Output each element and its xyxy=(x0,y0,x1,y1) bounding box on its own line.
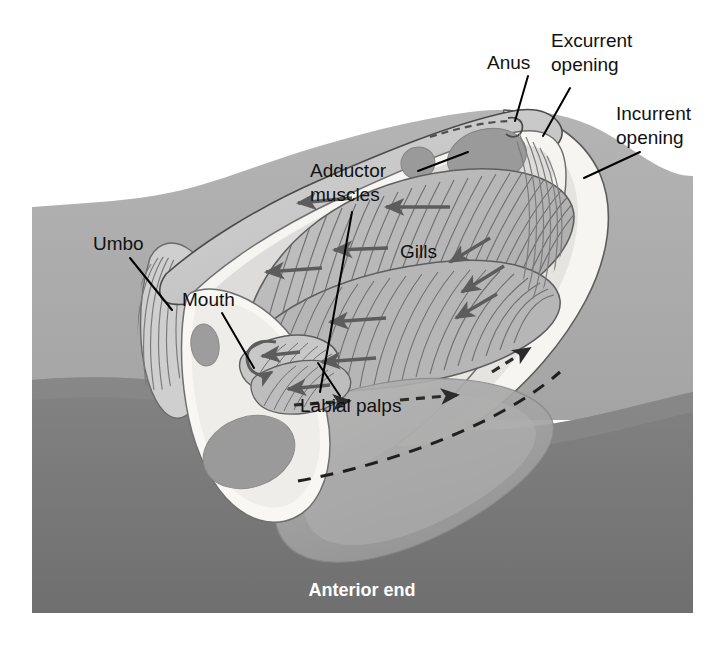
label-anus: Anus xyxy=(487,52,530,73)
label-excurrent-opening-line1: Excurrent xyxy=(551,30,633,51)
label-labial-palps: Labial palps xyxy=(300,395,401,416)
label-gills: Gills xyxy=(400,241,437,262)
label-incurrent-opening-line1: Incurrent xyxy=(616,103,692,124)
label-umbo: Umbo xyxy=(93,233,144,254)
label-excurrent-opening-line2: opening xyxy=(551,54,619,75)
label-mouth: Mouth xyxy=(182,289,235,310)
label-incurrent-opening-line2: opening xyxy=(616,127,684,148)
label-adductor-muscles-line2: muscles xyxy=(310,184,380,205)
caption-anterior-end: Anterior end xyxy=(308,580,415,600)
label-adductor-muscles-line1: Adductor xyxy=(310,160,387,181)
diagram-canvas: Anus Excurrent opening Incurrent opening… xyxy=(0,0,724,647)
